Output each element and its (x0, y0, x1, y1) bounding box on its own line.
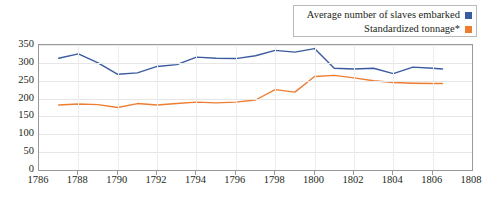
y-axis-tick-label: 0 (29, 164, 34, 174)
x-axis-tick-label: 1792 (146, 174, 167, 186)
x-gridline (275, 45, 276, 170)
legend-swatch-orange-icon (465, 26, 472, 33)
y-gridline (39, 45, 472, 46)
x-axis-tick-label: 1802 (342, 174, 363, 186)
x-axis-tick (314, 171, 315, 175)
legend-label: Average number of slaves embarked (307, 9, 460, 21)
x-axis-tick-label: 1794 (185, 174, 206, 186)
y-axis-tick-label: 150 (18, 110, 34, 120)
x-axis-labels: 1786178817901792179417961798180018021804… (38, 174, 473, 190)
y-gridline (39, 63, 472, 64)
x-gridline (78, 45, 79, 170)
chart-figure: Average number of slaves embarked Standa… (0, 0, 490, 199)
x-gridline (118, 45, 119, 170)
x-axis-tick (392, 171, 393, 175)
y-axis-tick-label: 300 (18, 57, 34, 67)
x-gridline (354, 45, 355, 170)
x-axis-tick-label: 1808 (461, 174, 482, 186)
x-gridline (196, 45, 197, 170)
y-axis-tick-label: 50 (24, 146, 35, 156)
x-axis-tick-label: 1800 (303, 174, 324, 186)
x-axis-tick (353, 171, 354, 175)
x-axis-tick-label: 1788 (67, 174, 88, 186)
x-gridline (315, 45, 316, 170)
x-gridline (393, 45, 394, 170)
x-axis-tick (156, 171, 157, 175)
y-axis-tick-label: 250 (18, 75, 34, 85)
legend-item-standardized-tonnage: Standardized tonnage* (298, 22, 472, 36)
legend-item-slaves-embarked: Average number of slaves embarked (298, 8, 472, 22)
x-axis-tick (432, 171, 433, 175)
plot-area (38, 44, 473, 171)
y-axis-tick-label: 350 (18, 39, 34, 49)
y-axis-tick-label: 200 (18, 93, 34, 103)
x-axis-tick-label: 1804 (382, 174, 403, 186)
x-gridline (433, 45, 434, 170)
x-axis-tick-label: 1806 (421, 174, 442, 186)
x-gridline (236, 45, 237, 170)
x-axis-tick-label: 1796 (224, 174, 245, 186)
x-gridline (157, 45, 158, 170)
x-axis-tick-label: 1798 (264, 174, 285, 186)
x-axis-tick (195, 171, 196, 175)
x-axis-tick-label: 1786 (28, 174, 49, 186)
y-gridline (39, 134, 472, 135)
y-gridline (39, 81, 472, 82)
y-gridline (39, 152, 472, 153)
y-axis-labels: 050100150200250300350 (0, 44, 34, 171)
y-gridline (39, 116, 472, 117)
legend-label: Standardized tonnage* (364, 23, 460, 35)
chart-legend: Average number of slaves embarked Standa… (293, 5, 477, 37)
x-axis-tick (117, 171, 118, 175)
x-axis-tick (274, 171, 275, 175)
x-axis-tick (235, 171, 236, 175)
y-axis-tick-label: 100 (18, 128, 34, 138)
x-axis-tick-label: 1790 (106, 174, 127, 186)
series-line (59, 49, 443, 75)
y-gridline (39, 99, 472, 100)
x-axis-tick (77, 171, 78, 175)
legend-swatch-blue-icon (465, 12, 472, 19)
